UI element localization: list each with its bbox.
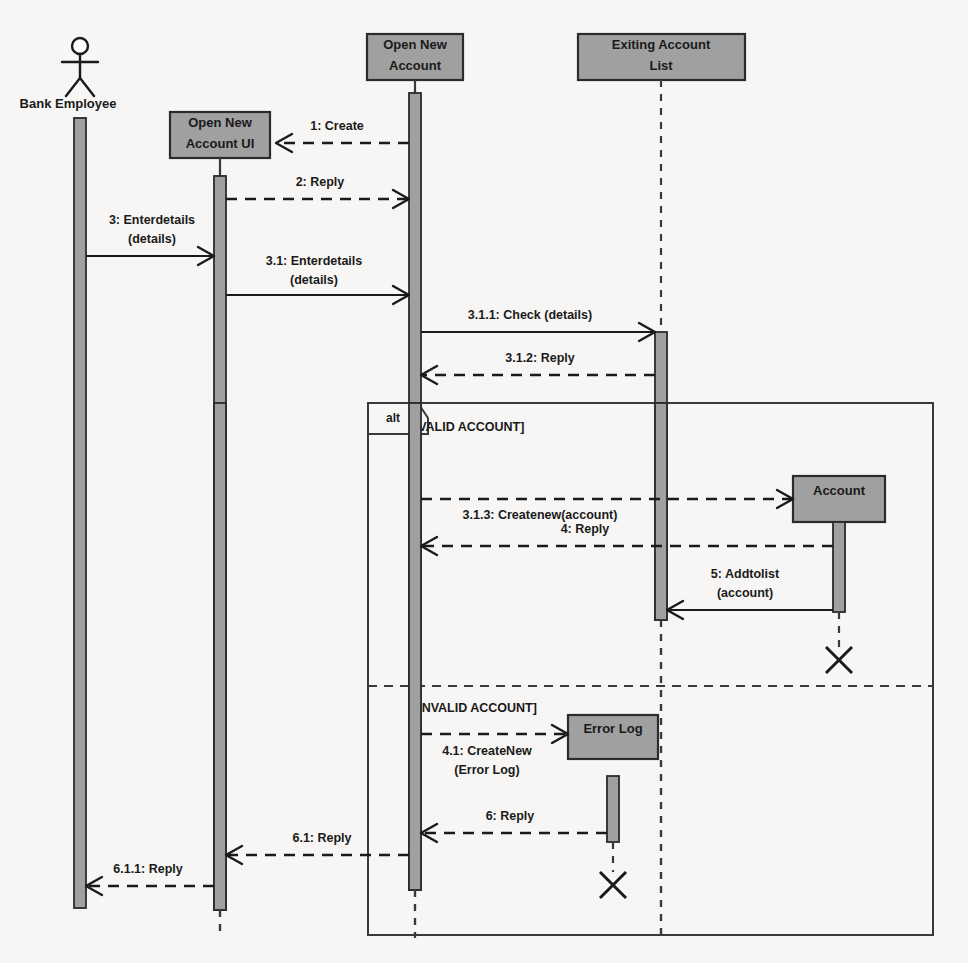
message-3-enterdetails[interactable]: 3: Enterdetails (details) (86, 213, 214, 265)
message-3-1-3-createnew[interactable]: 3.1.3: Createnew(account) (421, 490, 793, 522)
actor-leg-left-icon (66, 78, 80, 96)
message-6-1-reply[interactable]: 6.1: Reply (226, 831, 409, 864)
message-4-1-createnew[interactable]: 4.1: CreateNew (Error Log) (421, 725, 568, 777)
message-6-1-1-reply[interactable]: 6.1.1: Reply (86, 862, 214, 895)
message-5-addtolist[interactable]: 5: Addtolist (account) (667, 567, 833, 619)
lifeline-label-account: Account (813, 483, 866, 498)
lifeline-label-error-log: Error Log (583, 721, 642, 736)
message-6-label: 6: Reply (486, 809, 535, 823)
activation-open-new-account-ui-overlay (214, 403, 226, 910)
message-2-reply[interactable]: 2: Reply (226, 175, 409, 208)
lifeline-account[interactable]: Account (793, 476, 885, 673)
fragment-operator-label: alt (386, 411, 400, 425)
destroy-marker-error-log (600, 872, 626, 898)
activation-exiting-account-list-overlay (655, 403, 667, 620)
lifeline-label-open-new-account-line2: Account (389, 58, 442, 73)
lifeline-label-open-new-account-ui-line1: Open New (188, 115, 252, 130)
message-3-1-enterdetails[interactable]: 3.1: Enterdetails (details) (226, 254, 409, 304)
lifeline-label-exiting-account-list-line1: Exiting Account (612, 37, 711, 52)
message-3-1-2-arrowhead-icon (421, 366, 437, 384)
lifeline-label-open-new-account-line1: Open New (383, 37, 447, 52)
message-6-reply[interactable]: 6: Reply (421, 809, 607, 842)
message-5-label-line2: (account) (717, 586, 773, 600)
message-4-reply[interactable]: 4: Reply (421, 522, 833, 555)
activation-bank-employee (74, 118, 86, 908)
message-3-1-label-line1: 3.1: Enterdetails (266, 254, 363, 268)
lifeline-overlays (214, 403, 667, 935)
message-3-1-1-check[interactable]: 3.1.1: Check (details) (421, 308, 655, 341)
lifeline-label-open-new-account-ui-line2: Account UI (186, 136, 255, 151)
actor-leg-right-icon (80, 78, 94, 96)
message-2-label: 2: Reply (296, 175, 345, 189)
sequence-diagram: Bank Employee Open New Account UI Open N… (0, 0, 968, 963)
activation-open-new-account-overlay (409, 403, 421, 890)
lifeline-label-exiting-account-list-line2: List (649, 58, 673, 73)
message-4-1-label-line1: 4.1: CreateNew (442, 744, 532, 758)
destroy-marker-account (826, 647, 852, 673)
message-3-1-label-line2: (details) (290, 273, 338, 287)
actor-bank-employee[interactable]: Bank Employee (20, 38, 117, 908)
actor-label-bank-employee: Bank Employee (20, 96, 117, 111)
message-1-create[interactable]: 1: Create (276, 119, 409, 152)
message-3-1-3-label: 3.1.3: Createnew(account) (463, 508, 618, 522)
fragment-guard-invalid-account: [INVALID ACCOUNT] (414, 701, 537, 715)
fragment-guard-valid-account: [VALID ACCOUNT] (414, 420, 524, 434)
message-1-label: 1: Create (310, 119, 364, 133)
lifeline-error-log[interactable]: Error Log (568, 715, 658, 898)
message-4-label: 4: Reply (561, 522, 610, 536)
actor-head-icon (72, 38, 88, 54)
message-5-label-line1: 5: Addtolist (711, 567, 780, 581)
message-3-1-2-reply[interactable]: 3.1.2: Reply (421, 351, 655, 384)
message-3-1-2-label: 3.1.2: Reply (505, 351, 575, 365)
activation-error-log (607, 776, 619, 842)
activation-account (833, 522, 845, 612)
message-3-label-line1: 3: Enterdetails (109, 213, 195, 227)
message-6-1-1-label: 6.1.1: Reply (113, 862, 183, 876)
message-4-1-label-line2: (Error Log) (454, 763, 519, 777)
message-3-label-line2: (details) (128, 232, 176, 246)
sequence-diagram-canvas: Bank Employee Open New Account UI Open N… (0, 0, 968, 963)
message-6-1-label: 6.1: Reply (292, 831, 351, 845)
message-3-1-1-label: 3.1.1: Check (details) (468, 308, 592, 322)
